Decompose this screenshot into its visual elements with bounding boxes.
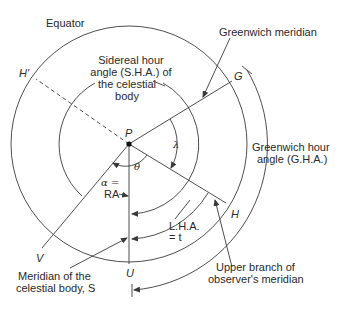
sha-label-line4: body [115, 90, 139, 102]
pole-point [126, 141, 131, 146]
point-label-g: G [234, 70, 243, 82]
point-label-v: V [36, 252, 45, 264]
body-meridian-label-line2: celestial body, S [16, 282, 95, 294]
gha-arc [134, 70, 267, 290]
gha-start-tick [242, 66, 252, 74]
sha-label-line1: Sidereal hour [98, 54, 164, 66]
point-label-h: H [231, 208, 239, 220]
point-label-p: P [125, 127, 133, 139]
theta-label: θ [134, 161, 140, 172]
equator-label: Equator [46, 17, 85, 29]
ra-pointer [119, 194, 128, 196]
lambda-label: λ [172, 139, 179, 150]
sha-label-line2: angle (S.H.A.) of [90, 66, 172, 78]
body-meridian-leader [70, 238, 127, 268]
gha-label-line2: angle (G.H.A.) [257, 153, 327, 165]
sha-arc-left [59, 83, 95, 196]
lha-label-line2: = t [169, 231, 182, 243]
sha-label-line3: the celestial [98, 78, 156, 90]
gha-label-line1: Greenwich hour [252, 141, 330, 153]
sha-arc-right [132, 83, 199, 214]
alpha-label-line2: RA [104, 188, 120, 200]
lha-label-leader [175, 200, 190, 219]
greenwich-meridian-label: Greenwich meridian [219, 26, 317, 38]
body-meridian-label-line1: Meridian of the [18, 270, 91, 282]
celestial-diagram: P G H H' V U Equator Sidereal hour angle… [0, 0, 342, 311]
greenwich-line [129, 81, 232, 144]
upper-branch-label-line2: observer's meridian [208, 273, 304, 285]
greenwich-meridian-leader [203, 38, 230, 97]
point-label-h-prime: H' [19, 67, 30, 79]
point-label-u: U [126, 267, 134, 279]
alpha-label-line1: α = [101, 177, 119, 188]
upper-branch-leader [215, 200, 232, 267]
upper-branch-label-line1: Upper branch of [216, 261, 296, 273]
